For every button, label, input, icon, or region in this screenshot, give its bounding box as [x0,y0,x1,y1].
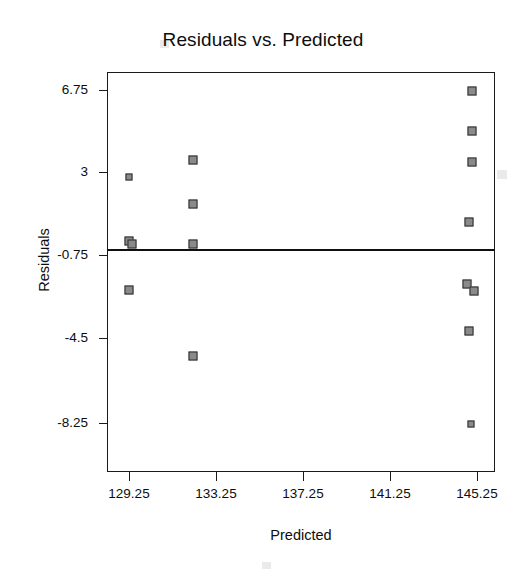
y-tick-mark [99,172,107,173]
data-point-marker [125,285,134,294]
y-tick-mark [99,255,107,256]
data-point-marker [126,173,133,180]
x-tick-label: 133.25 [166,487,266,501]
data-point-marker [189,352,198,361]
x-tick-mark [216,472,217,481]
scan-artifact [262,562,271,569]
x-tick-label: 137.25 [253,487,353,501]
data-point-marker [467,87,476,96]
x-tick-label: 129.25 [79,487,179,501]
y-tick-label: -4.5 [0,331,88,345]
x-axis-label: Predicted [107,527,495,543]
y-tick-mark [99,423,107,424]
x-tick-label: 145.25 [427,487,526,501]
plot-area [107,72,495,472]
y-axis-label: Residuals [36,190,52,330]
data-point-marker [467,127,476,136]
data-point-marker [469,286,478,295]
y-tick-mark [99,90,107,91]
x-tick-mark [303,472,304,481]
data-point-marker [128,240,137,249]
x-tick-label: 141.25 [340,487,440,501]
data-point-marker [465,218,474,227]
y-tick-label: 6.75 [0,83,88,97]
chart-title: Residuals vs. Predicted [0,29,526,51]
residuals-vs-predicted-chart: Residuals vs. Predicted 6.75 3 -0.75 -4.… [0,0,526,579]
x-tick-mark [477,472,478,481]
data-point-marker [465,326,474,335]
data-point-marker [189,240,198,249]
y-tick-label: 3 [0,165,88,179]
x-tick-mark [129,472,130,481]
data-point-marker [189,155,198,164]
x-tick-mark [390,472,391,481]
zero-reference-line [107,249,495,251]
data-point-marker [467,421,474,428]
y-tick-mark [99,338,107,339]
data-point-marker [467,158,476,167]
scan-artifact [497,170,507,179]
y-tick-label: -8.25 [0,416,88,430]
data-point-marker [189,200,198,209]
